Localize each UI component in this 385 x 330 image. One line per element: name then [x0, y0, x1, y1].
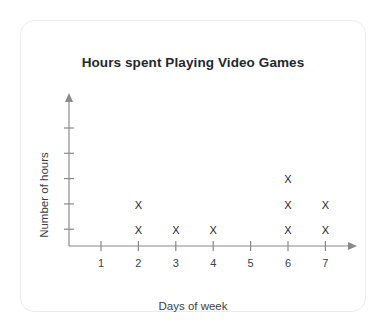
data-point-marker: X — [210, 225, 217, 236]
y-axis-arrow-icon — [65, 93, 73, 102]
x-tick-label: 4 — [210, 257, 216, 269]
chart-card: Hours spent Playing Video Games Number o… — [20, 20, 366, 312]
data-point-marker: X — [322, 199, 329, 210]
x-tick-label: 7 — [322, 257, 328, 269]
plot-area — [21, 21, 367, 313]
x-tick-label: 5 — [248, 257, 254, 269]
data-point-marker: X — [172, 225, 179, 236]
x-tick-label: 1 — [98, 257, 104, 269]
data-point-marker: X — [322, 225, 329, 236]
data-point-marker: X — [284, 225, 291, 236]
data-point-marker: X — [135, 225, 142, 236]
data-point-marker: X — [284, 199, 291, 210]
chart-page: Hours spent Playing Video Games Number o… — [0, 0, 385, 330]
x-tick-label: 2 — [135, 257, 141, 269]
x-tick-label: 3 — [173, 257, 179, 269]
data-point-marker: X — [135, 199, 142, 210]
x-axis-arrow-icon — [348, 242, 357, 250]
data-point-marker: X — [284, 174, 291, 185]
x-tick-label: 6 — [285, 257, 291, 269]
